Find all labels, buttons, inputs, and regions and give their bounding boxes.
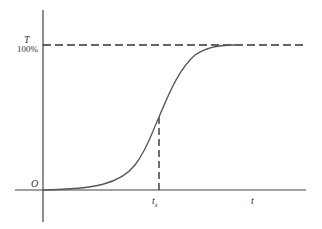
sigmoid-diagram: T 100% O ts t — [0, 0, 322, 229]
label-origin: O — [31, 178, 38, 189]
sigmoid-curve — [43, 45, 235, 190]
label-t: t — [251, 195, 254, 206]
label-ts: ts — [152, 195, 158, 209]
label-100-percent: 100% — [17, 44, 39, 54]
